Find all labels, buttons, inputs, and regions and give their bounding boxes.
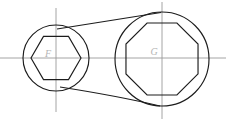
arms-group: [57, 13, 161, 107]
left-socket-label: F: [44, 48, 52, 59]
right-socket-label: G: [150, 46, 157, 57]
technical-drawing-canvas: F G: [0, 0, 226, 121]
wrench-outline-svg: F G: [0, 0, 226, 121]
